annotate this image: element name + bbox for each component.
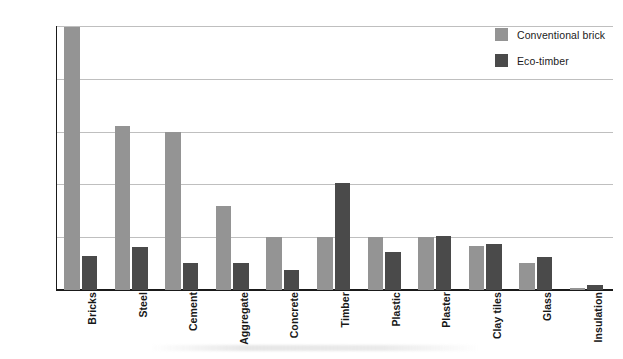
x-axis-label: Insulation — [592, 292, 604, 343]
bar — [537, 257, 553, 290]
bar — [587, 285, 603, 290]
legend-swatch-icon — [495, 54, 508, 67]
legend-label: Eco-timber — [517, 55, 569, 67]
x-axis-label: Plastic — [390, 292, 402, 327]
bar-group — [115, 26, 148, 290]
bar — [115, 126, 131, 290]
x-axis-label: Concrete — [288, 292, 300, 338]
bar-group — [165, 26, 198, 290]
x-axis-label: Bricks — [86, 292, 98, 325]
bar — [82, 256, 98, 290]
bar-group — [317, 26, 350, 290]
bar-group — [266, 26, 299, 290]
bar — [335, 183, 351, 290]
legend-item-eco-timber: Eco-timber — [495, 54, 619, 67]
bar-chart: Energy in MWh (1000 kWh) 0510152025 Bric… — [0, 0, 623, 359]
bar-group — [64, 26, 97, 290]
legend-swatch-icon — [495, 28, 508, 41]
bar-group — [368, 26, 401, 290]
x-axis-label: Cement — [187, 292, 199, 331]
bar — [266, 237, 282, 290]
x-axis-label: Plaster — [440, 292, 452, 328]
bar — [233, 263, 249, 290]
bar — [368, 237, 384, 290]
bar — [317, 237, 333, 290]
bar — [469, 246, 485, 290]
bar — [284, 270, 300, 290]
bar — [64, 27, 80, 290]
x-axis-label: Steel — [137, 292, 149, 318]
legend-item-conventional-brick: Conventional brick — [495, 28, 619, 41]
bar — [183, 263, 199, 290]
bar — [385, 252, 401, 290]
bar-group — [216, 26, 249, 290]
x-axis-label: Timber — [339, 292, 351, 327]
scan-artifact — [150, 345, 480, 351]
bar — [519, 263, 535, 290]
x-axis-label: Glass — [541, 292, 553, 321]
bar — [486, 244, 502, 290]
bar — [436, 236, 452, 290]
legend-label: Conventional brick — [517, 29, 605, 41]
x-axis-label: Clay tiles — [491, 292, 503, 339]
bar — [132, 247, 148, 290]
bar — [570, 288, 586, 290]
bar — [165, 132, 181, 290]
x-axis-label: Aggregate — [238, 292, 250, 345]
legend: Conventional brick Eco-timber — [495, 28, 619, 80]
bar — [418, 237, 434, 290]
bar-group — [418, 26, 451, 290]
bar — [216, 206, 232, 290]
